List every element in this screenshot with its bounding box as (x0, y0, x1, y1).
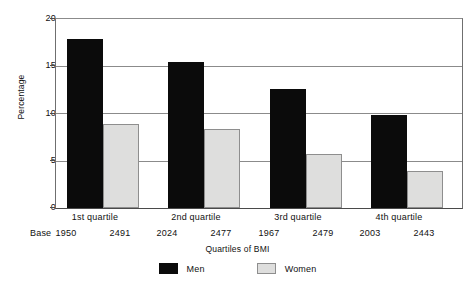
base-women-2nd-quartile: 2477 (203, 228, 239, 238)
base-men-1st-quartile: 1950 (48, 228, 84, 238)
gridline-10 (56, 113, 462, 114)
bar-men-3rd-quartile (270, 89, 306, 208)
legend-swatch-women-icon (257, 263, 276, 274)
bar-women-3rd-quartile (306, 154, 342, 208)
bar-men-2nd-quartile (168, 62, 204, 208)
legend-item-women: Women (257, 263, 317, 274)
legend-swatch-men-icon (159, 263, 178, 274)
gridline-15 (56, 66, 462, 67)
x-category-label-2: 2nd quartile (160, 212, 232, 222)
x-axis-title: Quartiles of BMI (0, 244, 475, 254)
legend-item-men: Men (159, 263, 205, 274)
base-men-2nd-quartile: 2024 (149, 228, 185, 238)
base-women-1st-quartile: 2491 (102, 228, 138, 238)
bar-chart: Percentage 20 15 10 5 0 1st quartile 2nd… (0, 0, 475, 288)
bar-men-4th-quartile (371, 115, 407, 208)
base-women-3rd-quartile: 2479 (305, 228, 341, 238)
base-men-4th-quartile: 2003 (352, 228, 388, 238)
bar-women-1st-quartile (103, 124, 139, 208)
bar-men-1st-quartile (67, 39, 103, 208)
legend-label-women: Women (285, 264, 317, 274)
bar-women-4th-quartile (407, 171, 443, 208)
base-men-3rd-quartile: 1967 (251, 228, 287, 238)
chart-legend: Men Women (0, 263, 475, 274)
plot-area (55, 18, 463, 209)
x-category-label-4: 4th quartile (363, 212, 435, 222)
base-women-4th-quartile: 2443 (406, 228, 442, 238)
bar-women-2nd-quartile (204, 129, 240, 208)
x-category-label-3: 3rd quartile (262, 212, 334, 222)
x-category-label-1: 1st quartile (59, 212, 131, 222)
legend-label-men: Men (187, 264, 205, 274)
